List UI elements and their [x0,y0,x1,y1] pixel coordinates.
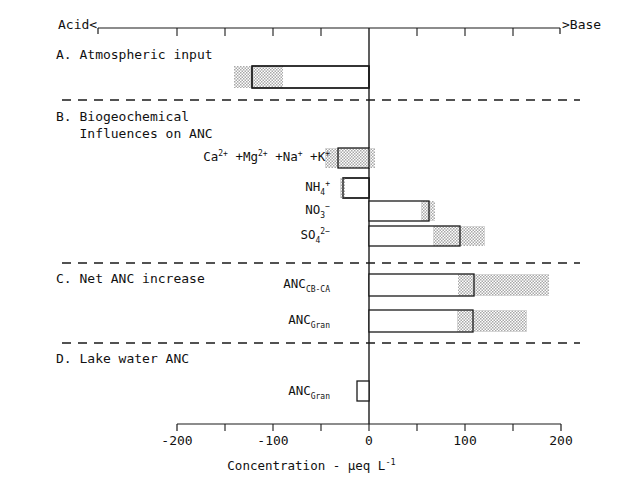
bar-sulfate [369,226,485,246]
tick-label-minus100: -100 [243,433,303,448]
bar-nitrate [369,201,435,221]
x-axis-title-main: Concentration - µeq L [227,458,385,473]
base-direction-label: >Base [562,18,601,32]
bar-anc-cb-ca [369,274,549,296]
row-label-sulfate: SO42− [90,228,330,242]
tick-label-zero: 0 [339,433,399,448]
section-heading-a: A. Atmospheric input [56,46,213,63]
row-label-anc-cb-ca: ANCCB-CA [90,277,330,291]
row-label-base-cations: Ca2+ +Mg2+ +Na+ +K+ [90,150,330,164]
x-axis-title: Concentration - µeq L-1 [0,458,623,473]
section-heading-b: B. Biogeochemical Influences on ANC [56,108,213,142]
bar-ammonium [340,178,369,198]
chart-root: Acid< >Base A. Atmospheric input B. Biog… [0,0,623,491]
bar-base-cations [325,148,375,168]
x-axis-title-exponent: -1 [385,457,395,467]
acid-direction-label: Acid< [58,18,97,32]
row-label-ammonium: NH4+ [90,180,330,194]
row-label-nitrate: NO3− [90,203,330,217]
bar-anc-gran-lake [357,381,369,401]
row-label-anc-gran-lake: ANCGran [90,384,330,398]
tick-label-minus200: -200 [147,433,207,448]
bar-atmospheric-input [234,66,369,88]
top-axis-labels: Acid< >Base [0,0,623,40]
row-label-anc-gran-net: ANCGran [90,313,330,327]
bar-anc-gran-net [369,310,527,332]
tick-label-200: 200 [531,433,591,448]
bottom-axis [177,424,561,431]
chart-canvas [0,0,623,491]
tick-label-100: 100 [435,433,495,448]
section-heading-d: D. Lake water ANC [56,350,189,367]
